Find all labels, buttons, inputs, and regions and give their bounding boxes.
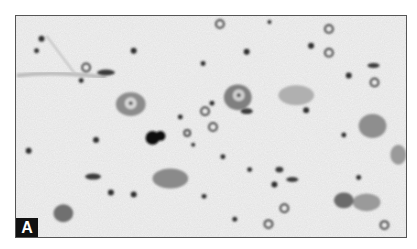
panel-label: A [16,218,38,237]
micrograph-panel: A [15,15,407,238]
tissue-image [16,16,406,237]
neuron-cell-body [116,92,146,116]
